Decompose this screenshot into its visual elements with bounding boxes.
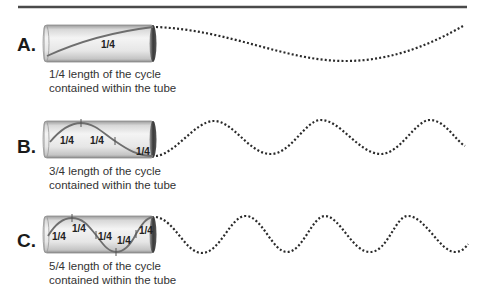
segment-label: 1/4 (60, 135, 74, 146)
segment-label: 1/4 (72, 223, 86, 234)
caption-a-line2: contained within the tube (49, 82, 176, 94)
row-a: A. 1/4 1/4 length of the cycle contained… (17, 25, 463, 94)
segment-label: 1/4 (52, 231, 66, 242)
caption-b-line1: 3/4 length of the cycle (49, 165, 161, 177)
tube-right-cap (150, 121, 157, 158)
tube-body (44, 25, 154, 62)
caption-a-line1: 1/4 length of the cycle (49, 68, 161, 80)
wave-dotted-c (156, 216, 468, 253)
caption-b-line2: contained within the tube (49, 179, 176, 191)
row-b: B. 1/4 1/4 1/4 3/4 length of the cycle c… (17, 119, 465, 191)
segment-label: 1/4 (136, 146, 150, 157)
row-label-b: B. (17, 136, 36, 157)
row-c: C. 1/4 1/4 1/4 1/4 1/4 5/4 length of the… (17, 214, 468, 286)
row-label-c: C. (17, 230, 36, 251)
row-label-a: A. (17, 34, 36, 55)
segment-label: 1/4 (139, 225, 153, 236)
caption-c-line1: 5/4 length of the cycle (49, 260, 161, 272)
segment-label: 1/4 (90, 135, 104, 146)
segment-label: 1/4 (117, 235, 131, 246)
caption-c-line2: contained within the tube (49, 274, 176, 286)
segment-label: 1/4 (98, 231, 112, 242)
wave-dotted-a (156, 26, 463, 61)
wave-dotted-b (156, 120, 465, 156)
standing-wave-tube-diagram: A. 1/4 1/4 length of the cycle contained… (0, 0, 486, 296)
tube-a (43, 25, 157, 62)
tube-right-cap (150, 25, 157, 62)
segment-label: 1/4 (101, 39, 115, 50)
